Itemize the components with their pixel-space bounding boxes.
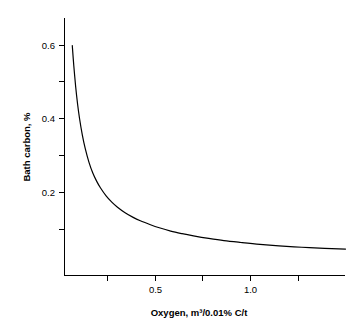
y-axis-title: Bath carbon, % [21, 112, 32, 182]
y-tick-label-0.4: 0.4 [42, 113, 55, 124]
data-curve-bath-carbon [72, 46, 345, 250]
x-tick-label-1.0: 1.0 [244, 284, 257, 295]
chart-figure: 0.6 0.4 0.2 0.5 1.0 Oxygen, m³/0.01% C/t… [0, 0, 362, 331]
x-tick-label-0.5: 0.5 [149, 284, 162, 295]
y-tick-label-0.6: 0.6 [42, 40, 55, 51]
x-axis-title: Oxygen, m³/0.01% C/t [151, 307, 248, 318]
y-tick-label-0.2: 0.2 [42, 187, 55, 198]
chart-canvas: 0.6 0.4 0.2 0.5 1.0 Oxygen, m³/0.01% C/t… [0, 0, 362, 331]
